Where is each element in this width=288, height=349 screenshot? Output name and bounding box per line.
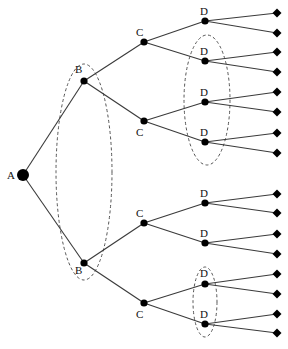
terminal-node-diamond-icon bbox=[273, 149, 282, 158]
node-label: D bbox=[200, 268, 208, 279]
terminal-node-diamond-icon bbox=[273, 108, 282, 117]
terminal-node-diamond-icon bbox=[273, 129, 282, 138]
node-label: D bbox=[200, 87, 208, 98]
tree-edge bbox=[84, 42, 144, 81]
terminal-node-diamond-icon bbox=[273, 290, 282, 299]
tree-edge bbox=[144, 284, 205, 303]
decision-node-D bbox=[201, 199, 208, 206]
tree-edge bbox=[144, 223, 205, 243]
tree-edge bbox=[144, 42, 205, 61]
leaf-edge bbox=[205, 13, 277, 21]
terminal-node-diamond-icon bbox=[273, 48, 282, 57]
decision-node-B bbox=[80, 77, 87, 84]
leaf-edge bbox=[205, 61, 277, 72]
tree-edge bbox=[144, 203, 205, 223]
terminal-node-diamond-icon bbox=[273, 9, 282, 18]
terminal-node-diamond-icon bbox=[273, 88, 282, 97]
node-label: A bbox=[7, 170, 15, 181]
decision-node-D bbox=[201, 239, 208, 246]
node-label: D bbox=[200, 127, 208, 138]
decision-node-C bbox=[140, 299, 147, 306]
leaf-edge bbox=[205, 274, 277, 284]
terminal-node-diamond-icon bbox=[273, 29, 282, 38]
node-label: D bbox=[200, 46, 208, 57]
terminal-node-diamond-icon bbox=[273, 250, 282, 259]
decision-node-C bbox=[140, 117, 147, 124]
tree-edges bbox=[23, 21, 205, 324]
decision-node-D bbox=[201, 138, 208, 145]
tree-edge bbox=[84, 223, 144, 263]
root-node-A bbox=[17, 169, 29, 181]
decision-node-C bbox=[140, 38, 147, 45]
tree-edge bbox=[144, 121, 205, 142]
terminal-node-diamond-icon bbox=[273, 329, 282, 338]
decision-node-D bbox=[201, 280, 208, 287]
node-label: C bbox=[136, 27, 143, 38]
tree-edge bbox=[84, 81, 144, 121]
game-tree-diagram: ABBCCCCDDDDDDDD bbox=[0, 0, 288, 349]
terminal-node-diamond-icon bbox=[273, 310, 282, 319]
decision-node-D bbox=[201, 57, 208, 64]
leaf-edge bbox=[205, 92, 277, 102]
tree-edge bbox=[84, 263, 144, 303]
leaf-edge bbox=[205, 102, 277, 112]
leaf-edge bbox=[205, 234, 277, 243]
leaf-edge bbox=[205, 133, 277, 142]
leaf-edge bbox=[205, 194, 277, 203]
tree-edge bbox=[144, 21, 205, 42]
node-label: B bbox=[75, 265, 82, 276]
tree-edge bbox=[23, 81, 84, 175]
decision-node-D bbox=[201, 320, 208, 327]
leaf-edge bbox=[205, 324, 277, 333]
decision-node-D bbox=[201, 17, 208, 24]
terminal-node-diamond-icon bbox=[273, 209, 282, 218]
leaf-edge bbox=[205, 21, 277, 33]
tree-edge bbox=[144, 303, 205, 324]
decision-node-C bbox=[140, 219, 147, 226]
leaf-edges bbox=[205, 13, 277, 333]
node-label: D bbox=[200, 228, 208, 239]
terminal-node-diamond-icon bbox=[273, 230, 282, 239]
node-label: B bbox=[75, 64, 82, 75]
node-label: C bbox=[136, 309, 143, 320]
decision-node-D bbox=[201, 98, 208, 105]
tree-edge bbox=[144, 102, 205, 121]
terminal-node-diamond-icon bbox=[273, 68, 282, 77]
node-label: C bbox=[136, 127, 143, 138]
terminal-leaves bbox=[273, 9, 282, 338]
leaf-edge bbox=[205, 142, 277, 153]
node-label: D bbox=[200, 309, 208, 320]
node-label: D bbox=[200, 6, 208, 17]
leaf-edge bbox=[205, 52, 277, 61]
terminal-node-diamond-icon bbox=[273, 270, 282, 279]
information-set-ellipse bbox=[56, 64, 112, 280]
node-label: C bbox=[136, 208, 143, 219]
leaf-edge bbox=[205, 243, 277, 254]
terminal-node-diamond-icon bbox=[273, 190, 282, 199]
tree-canvas bbox=[0, 0, 288, 349]
decision-nodes bbox=[17, 17, 209, 327]
node-label: D bbox=[200, 188, 208, 199]
leaf-edge bbox=[205, 203, 277, 213]
tree-edge bbox=[23, 175, 84, 263]
